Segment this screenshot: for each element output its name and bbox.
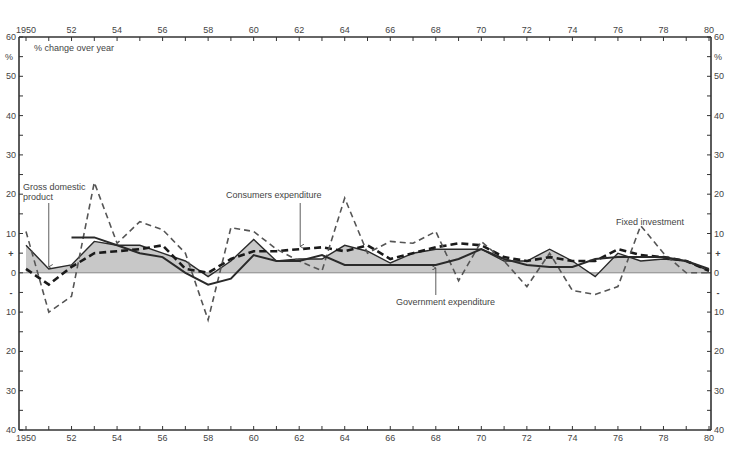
x-tick-label-top: 76 [613,25,623,35]
x-tick-label-bottom: 78 [658,433,668,443]
chart-subtitle: % change over year [34,43,114,53]
y-tick-label-left: 30 [6,150,16,160]
minus-sign-right: - [717,288,720,298]
x-tick-label-top: 56 [158,25,168,35]
annotation-label: product [23,192,54,202]
y-tick-label-left: 10 [6,307,16,317]
minus-sign-left: - [10,288,13,298]
x-tick-label-top: 54 [112,25,122,35]
x-tick-label-top: 1950 [16,25,36,35]
y-tick-label-right: 50 [714,71,724,81]
x-tick-label-top: 66 [385,25,395,35]
x-tick-label-top: 70 [476,25,486,35]
x-tick-label-top: 74 [567,25,577,35]
y-tick-label-left: 10 [6,229,16,239]
plus-sign-left: + [8,249,13,259]
x-tick-label-bottom: 80 [704,433,714,443]
y-tick-label-right: 0 [714,268,719,278]
y-tick-label-right: 10 [714,307,724,317]
y-tick-label-left: 0 [11,268,16,278]
x-tick-label-bottom: 68 [431,433,441,443]
x-tick-label-top: 58 [203,25,213,35]
unit-label-left: % [5,52,13,62]
x-tick-label-bottom: 60 [249,433,259,443]
x-tick-label-bottom: 56 [158,433,168,443]
unit-label-right: % [714,52,722,62]
plus-sign-right: + [715,249,720,259]
x-tick-label-top: 60 [249,25,259,35]
y-tick-label-left: 40 [6,111,16,121]
x-tick-label-bottom: 76 [613,433,623,443]
x-tick-label-bottom: 1950 [16,433,36,443]
x-tick-label-bottom: 52 [67,433,77,443]
annotation-label: Consumers expenditure [226,190,322,200]
y-tick-label-left: 40 [6,425,16,435]
x-tick-label-bottom: 62 [294,433,304,443]
y-tick-label-left: 20 [6,189,16,199]
x-tick-label-top: 80 [704,25,714,35]
y-tick-label-right: 40 [714,425,724,435]
y-tick-label-right: 40 [714,111,724,121]
y-tick-label-right: 20 [714,189,724,199]
x-tick-label-bottom: 58 [203,433,213,443]
axes [19,37,711,430]
x-tick-label-top: 64 [340,25,350,35]
x-tick-label-bottom: 70 [476,433,486,443]
y-tick-label-right: 30 [714,386,724,396]
y-tick-label-right: 30 [714,150,724,160]
annotations: Gross domesticproductConsumers expenditu… [23,182,685,307]
x-tick-label-top: 72 [522,25,532,35]
annotation-label: Government expenditure [396,297,495,307]
x-tick-label-bottom: 54 [112,433,122,443]
annotation-label: Gross domestic [23,182,86,192]
x-tick-label-bottom: 64 [340,433,350,443]
y-tick-label-right: 20 [714,346,724,356]
x-tick-label-bottom: 74 [567,433,577,443]
y-tick-label-left: 50 [6,71,16,81]
x-tick-label-bottom: 72 [522,433,532,443]
x-tick-label-top: 78 [658,25,668,35]
y-tick-label-left: 20 [6,346,16,356]
x-tick-label-top: 62 [294,25,304,35]
x-tick-label-bottom: 66 [385,433,395,443]
y-tick-label-right: 10 [714,229,724,239]
y-tick-label-left: 60 [6,32,16,42]
y-tick-label-left: 30 [6,386,16,396]
x-tick-label-top: 52 [67,25,77,35]
x-tick-label-top: 68 [431,25,441,35]
annotation-label: Fixed investment [616,217,685,227]
y-tick-label-right: 60 [714,32,724,42]
economic-growth-chart: 1950195052525454565658586060626264646666… [0,0,737,463]
